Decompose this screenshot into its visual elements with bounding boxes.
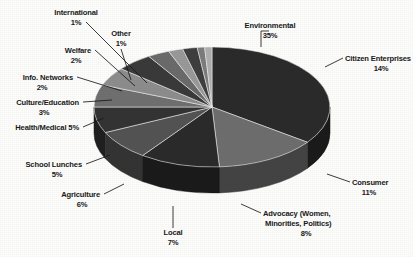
label-advocacy-line1: Advocacy (Women, — [263, 209, 331, 218]
label-local: Local 7% — [163, 228, 182, 247]
label-international-value: 1% — [71, 18, 82, 27]
label-local-value: 7% — [168, 238, 179, 247]
label-citizen-enterprises: Citizen Enterprises 14% — [345, 54, 411, 73]
label-citizen-enterprises-name: Citizen Enterprises — [345, 54, 411, 63]
label-school-lunches-name: School Lunches — [25, 160, 82, 169]
label-environmental-value: 35% — [263, 31, 278, 40]
label-culture-education-value: 3% — [39, 108, 50, 117]
label-welfare-name: Welfare — [65, 46, 91, 55]
pie-chart-svg: Environmental 35%Citizen Enterprises 14%… — [0, 0, 413, 257]
label-advocacy-value: 8% — [301, 229, 312, 238]
label-consumer-value: 11% — [362, 188, 377, 197]
label-agriculture-value: 6% — [77, 200, 88, 209]
label-local-name: Local — [163, 228, 182, 237]
leader-line-citizen-enterprises — [325, 58, 343, 67]
label-advocacy: Advocacy (Women, Minorities, Politics) 8… — [263, 209, 332, 238]
leader-line-agriculture — [104, 184, 124, 194]
label-culture-education-name: Culture/Education — [16, 98, 79, 107]
pie-chart-figure: Environmental 35%Citizen Enterprises 14%… — [0, 0, 413, 257]
label-info-networks-name: Info. Networks — [23, 73, 73, 82]
label-international: International 1% — [54, 8, 98, 27]
label-health-medical: Health/Medical 5% — [15, 123, 79, 132]
label-welfare-value: 2% — [71, 56, 82, 65]
label-info-networks: Info. Networks 2% — [23, 73, 73, 92]
label-school-lunches: School Lunches 5% — [25, 160, 82, 179]
label-advocacy-line2: Minorities, Politics) — [265, 219, 332, 228]
label-culture-education: Culture/Education 3% — [16, 98, 79, 117]
label-other-name: Other — [111, 29, 131, 38]
label-agriculture: Agriculture 6% — [61, 190, 100, 209]
label-agriculture-name: Agriculture — [61, 190, 100, 199]
label-consumer: Consumer 11% — [352, 178, 389, 197]
label-school-lunches-value: 5% — [52, 170, 63, 179]
label-environmental-name: Environmental — [245, 21, 296, 30]
label-citizen-enterprises-value: 14% — [374, 64, 389, 73]
label-other-value: 1% — [116, 39, 127, 48]
leader-line-consumer — [327, 174, 350, 182]
label-info-networks-value: 2% — [37, 83, 48, 92]
label-consumer-name: Consumer — [352, 178, 389, 187]
label-health-medical-name: Health/Medical 5% — [15, 123, 79, 132]
label-international-name: International — [54, 8, 98, 17]
label-other: Other 1% — [111, 29, 131, 48]
label-welfare: Welfare 2% — [65, 46, 91, 65]
label-environmental: Environmental 35% — [245, 21, 296, 40]
leader-line-advocacy — [241, 204, 261, 213]
